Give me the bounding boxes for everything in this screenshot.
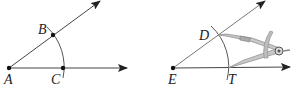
figure-right: E D T [167,1,290,87]
label-b: B [38,22,47,37]
label-e: E [167,72,177,87]
label-c: C [51,72,61,87]
point-a [7,66,11,70]
point-b [51,33,55,37]
label-t: T [228,72,237,87]
figure-left: A B C [3,1,127,87]
point-e [171,66,175,70]
arc-bc [47,27,64,78]
label-d: D [198,28,209,43]
label-a: A [3,72,13,87]
point-c [61,66,65,70]
construction-diagram: A B C E D T [0,0,294,87]
